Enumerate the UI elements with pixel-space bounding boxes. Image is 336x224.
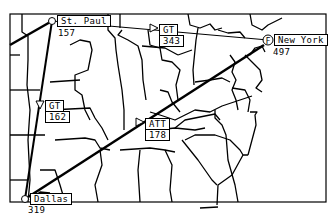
link-value-gt-2: 162 — [45, 111, 70, 123]
city-label-st-paul[interactable]: St. Paul — [57, 15, 111, 27]
fiber-icon: F — [266, 37, 271, 46]
city-value-new-york: 497 — [273, 47, 290, 57]
link-value-att-1: 178 — [145, 129, 170, 141]
city-value-dallas: 319 — [28, 205, 45, 215]
city-label-dallas[interactable]: Dallas — [30, 193, 72, 205]
city-marker-st-paul[interactable] — [49, 18, 56, 25]
city-value-st-paul: 157 — [58, 28, 75, 38]
link-value-gt-1: 343 — [159, 35, 184, 47]
city-label-new-york[interactable]: New York — [274, 34, 328, 46]
city-marker-dallas[interactable] — [22, 196, 29, 203]
